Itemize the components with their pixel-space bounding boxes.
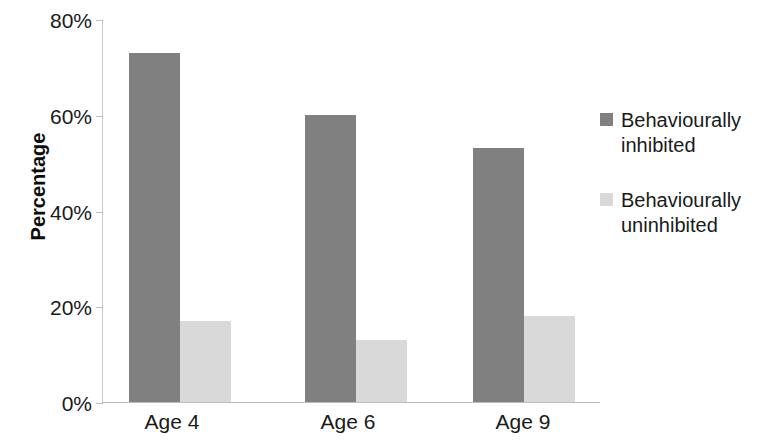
- y-tick-label-80: 80%: [26, 10, 92, 31]
- legend-label-inhibited-line2: inhibited: [621, 133, 741, 158]
- x-tick-label-age9: Age 9: [468, 411, 578, 432]
- legend-label-uninhibited: Behaviourally uninhibited: [621, 188, 741, 238]
- y-tick-mark-80: [96, 20, 103, 21]
- y-axis-tick-labels: 80% 60% 40% 20% 0%: [22, 0, 92, 444]
- y-tick-mark-20: [96, 307, 103, 308]
- bar-age4-uninhibited: [180, 321, 231, 402]
- x-tick-label-age6: Age 6: [293, 411, 403, 432]
- y-tick-mark-0: [96, 403, 103, 404]
- bar-age4-inhibited: [129, 53, 180, 402]
- bar-age9-inhibited: [473, 148, 524, 402]
- legend-label-uninhibited-line1: Behaviourally: [621, 188, 741, 213]
- y-tick-label-0: 0%: [26, 393, 92, 414]
- legend-label-inhibited-line1: Behaviourally: [621, 108, 741, 133]
- legend-swatch-icon-uninhibited: [600, 193, 613, 206]
- y-tick-label-60: 60%: [26, 106, 92, 127]
- y-tick-mark-60: [96, 116, 103, 117]
- y-tick-mark-40: [96, 212, 103, 213]
- legend-label-inhibited: Behaviourally inhibited: [621, 108, 741, 158]
- bar-age6-inhibited: [305, 115, 356, 402]
- plot-area: [102, 20, 600, 403]
- y-tick-label-40: 40%: [26, 202, 92, 223]
- bar-age6-uninhibited: [356, 340, 407, 402]
- x-axis-line: [102, 402, 600, 403]
- x-tick-label-age4: Age 4: [117, 411, 227, 432]
- legend-item-uninhibited: Behaviourally uninhibited: [600, 188, 766, 238]
- bar-chart: Percentage 80% 60% 40% 20% 0% Age 4 Age …: [0, 0, 766, 444]
- legend-item-inhibited: Behaviourally inhibited: [600, 108, 766, 158]
- legend-label-uninhibited-line2: uninhibited: [621, 213, 741, 238]
- y-tick-label-20: 20%: [26, 297, 92, 318]
- bar-age9-uninhibited: [524, 316, 575, 402]
- legend-swatch-icon-inhibited: [600, 113, 613, 126]
- legend: Behaviourally inhibited Behaviourally un…: [600, 108, 766, 268]
